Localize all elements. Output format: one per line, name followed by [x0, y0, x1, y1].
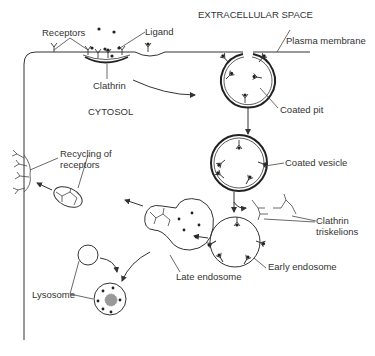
arrow-to-recycling-vesicle — [125, 200, 143, 206]
fused-lysosome — [94, 283, 126, 315]
coated-pit-leader — [260, 88, 278, 108]
receptors-label: Receptors — [42, 27, 86, 38]
clathrin-triskelions-label-line2: triskelions — [316, 226, 358, 237]
ligand-label: Ligand — [145, 26, 174, 37]
recycled-receptors-leader — [30, 158, 58, 170]
clathrin-coat — [83, 55, 130, 63]
triskelions-leader — [264, 216, 316, 222]
recycling-vesicle — [51, 183, 86, 212]
ligand-dots — [90, 27, 120, 57]
arrow-lysosome-fusion — [100, 258, 117, 272]
recycling-label-line1: Recycling of — [60, 148, 112, 159]
early-endosome — [206, 217, 266, 267]
arrow-to-membrane — [37, 183, 52, 190]
cytosol-label: CYTOSOL — [88, 106, 133, 117]
arrow-late-endosome-fusion — [122, 252, 150, 281]
late-endosome-label: Late endosome — [176, 271, 242, 282]
receptors-group — [51, 42, 151, 58]
clathrin-triskelions — [252, 194, 296, 220]
ligand-leader — [120, 32, 145, 48]
recycled-receptors — [12, 150, 30, 194]
late-endosome — [145, 199, 214, 250]
extracellular-space-label: EXTRACELLULAR SPACE — [198, 9, 313, 20]
arrow-clathrin-release — [234, 202, 246, 208]
plasma-membrane-label: Plasma membrane — [286, 35, 366, 46]
coated-vesicle-label: Coated vesicle — [285, 157, 347, 168]
early-endosome-label: Early endosome — [268, 261, 337, 272]
lysosome — [78, 245, 98, 265]
coated-vesicle — [211, 135, 268, 191]
arrow-to-coated-pit — [133, 80, 195, 95]
recycling-label-line2: receptors — [60, 159, 100, 170]
early-endosome-leader — [254, 258, 266, 268]
coated-pit — [220, 53, 275, 108]
lysosome-label: Lysosome — [32, 289, 75, 300]
clathrin-triskelions-label-line1: Clathrin — [316, 215, 349, 226]
coated-pit-label: Coated pit — [280, 104, 324, 115]
receptors-leader — [54, 38, 88, 50]
clathrin-label: Clathrin — [93, 80, 126, 91]
late-endosome-leader — [170, 255, 180, 272]
endocytosis-diagram: EXTRACELLULAR SPACE Plasma membrane Rece… — [0, 0, 375, 356]
